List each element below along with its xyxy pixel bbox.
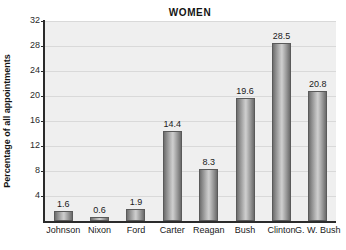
bar — [272, 43, 291, 221]
y-axis-title: Percentage of all appointments — [0, 21, 14, 221]
bar — [308, 91, 327, 221]
y-axis-tick-mark — [41, 71, 44, 72]
x-axis-category-label: G. W. Bush — [291, 225, 345, 236]
bar — [163, 131, 182, 221]
gridline — [45, 171, 336, 172]
y-axis-tick-label: 20 — [14, 90, 40, 101]
bar-chart: WOMEN Percentage of all appointments 481… — [0, 0, 346, 250]
bar-value-label: 1.9 — [116, 196, 156, 208]
bar-value-label: 14.4 — [152, 118, 192, 130]
bar-value-label: 0.6 — [80, 204, 120, 216]
bar-value-label: 1.6 — [43, 198, 83, 210]
y-axis-tick-mark — [41, 121, 44, 122]
y-axis-tick-mark — [41, 46, 44, 47]
bar — [54, 211, 73, 221]
y-axis-tick-label: 16 — [14, 115, 40, 126]
bar-value-label: 28.5 — [261, 30, 301, 42]
y-axis-tick-mark — [41, 96, 44, 97]
y-axis-tick-label: 24 — [14, 65, 40, 76]
bar-value-label: 19.6 — [225, 85, 265, 97]
gridline — [45, 196, 336, 197]
y-axis-tick-mark — [41, 21, 44, 22]
gridline — [45, 21, 336, 22]
y-axis-tick-mark — [41, 171, 44, 172]
gridline — [45, 146, 336, 147]
gridline — [45, 71, 336, 72]
bar-value-label: 8.3 — [189, 156, 229, 168]
y-axis-tick-label: 4 — [14, 190, 40, 201]
gridline — [45, 46, 336, 47]
bar — [236, 98, 255, 221]
bar — [126, 209, 145, 221]
bar-value-label: 20.8 — [298, 78, 338, 90]
chart-title: WOMEN — [44, 6, 336, 20]
y-axis-title-text: Percentage of all appointments — [2, 54, 12, 188]
y-axis-tick-label: 32 — [14, 15, 40, 26]
y-axis-tick-label: 28 — [14, 40, 40, 51]
y-axis-tick-label: 8 — [14, 165, 40, 176]
y-axis-tick-mark — [41, 196, 44, 197]
y-axis-tick-mark — [41, 146, 44, 147]
bar — [199, 169, 218, 221]
gridline — [45, 96, 336, 97]
x-axis-line — [43, 221, 336, 223]
y-axis-tick-label: 12 — [14, 140, 40, 151]
bar — [90, 217, 109, 221]
